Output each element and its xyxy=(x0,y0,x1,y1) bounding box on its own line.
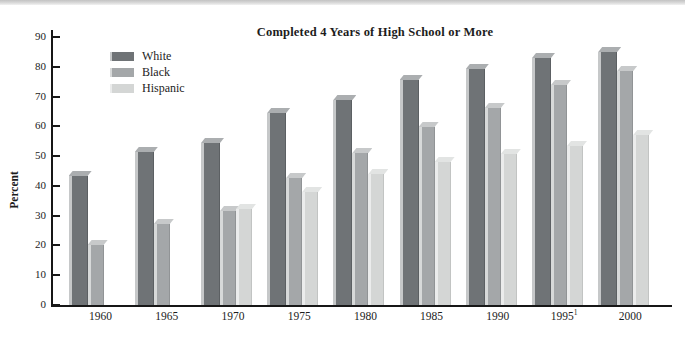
bar-top-face xyxy=(135,147,158,152)
bar-top-face xyxy=(400,75,423,80)
decorative-top-band xyxy=(0,0,685,5)
bar-top-face xyxy=(267,108,290,113)
x-tick-label-1960: 1960 xyxy=(89,310,112,322)
bar-top-face xyxy=(201,138,224,143)
bar-hispanic-1995 xyxy=(567,146,583,305)
bar-top-face xyxy=(567,141,587,146)
bar-group-1995 xyxy=(532,58,583,305)
bar-top-face xyxy=(286,173,306,178)
bar-top-face xyxy=(69,171,92,176)
bar-black-1965 xyxy=(154,224,170,305)
x-tick-label-1995: 19951 xyxy=(551,310,578,322)
bar-group-1960 xyxy=(69,176,104,305)
bar-white-1990 xyxy=(466,69,485,305)
bar-top-face xyxy=(154,219,174,224)
bar-white-1980 xyxy=(333,100,352,305)
x-tick-label-1970: 1970 xyxy=(222,310,245,322)
y-tick-label-20: 20 xyxy=(18,237,46,252)
y-tick-20 xyxy=(53,244,60,246)
bar-group-1985 xyxy=(400,80,451,305)
bar-group-1975 xyxy=(267,113,318,305)
bar-white-1985 xyxy=(400,80,419,305)
x-axis-line xyxy=(51,305,672,307)
x-tick-label-1990: 1990 xyxy=(486,310,509,322)
y-tick-label-90: 90 xyxy=(18,29,46,44)
bar-top-face xyxy=(633,130,653,135)
y-tick-label-40: 40 xyxy=(18,178,46,193)
x-tick-label-1985: 1985 xyxy=(420,310,443,322)
bar-top-face xyxy=(302,187,322,192)
x-tick-label-1980: 1980 xyxy=(354,310,377,322)
x-tick-label-1965: 1965 xyxy=(155,310,178,322)
y-tick-30 xyxy=(53,215,60,217)
bar-black-1980 xyxy=(352,153,368,305)
bar-black-1990 xyxy=(485,108,501,305)
bar-black-1975 xyxy=(286,178,302,305)
bar-top-face xyxy=(532,53,555,58)
bar-top-face xyxy=(485,103,505,108)
y-tick-label-50: 50 xyxy=(18,148,46,163)
y-tick-label-80: 80 xyxy=(18,59,46,74)
bar-group-1970 xyxy=(201,143,252,305)
y-tick-10 xyxy=(53,274,60,276)
y-tick-label-60: 60 xyxy=(18,118,46,133)
y-tick-70 xyxy=(53,96,60,98)
y-tick-90 xyxy=(53,36,60,38)
y-tick-0 xyxy=(53,304,60,306)
bar-hispanic-1990 xyxy=(501,154,517,305)
bar-black-1995 xyxy=(551,85,567,305)
bar-top-face xyxy=(368,169,388,174)
bar-top-face xyxy=(617,66,637,71)
chart-figure: Completed 4 Years of High School or More… xyxy=(0,0,685,344)
bar-white-2000 xyxy=(598,52,617,305)
x-tick-label-1975: 1975 xyxy=(288,310,311,322)
bar-black-2000 xyxy=(617,71,633,305)
y-tick-40 xyxy=(53,185,60,187)
bar-top-face xyxy=(88,240,108,245)
y-tick-label-70: 70 xyxy=(18,89,46,104)
bar-top-face xyxy=(236,204,256,209)
bar-black-1970 xyxy=(220,211,236,305)
bar-white-1975 xyxy=(267,113,286,305)
bar-white-1970 xyxy=(201,143,220,305)
bar-top-face xyxy=(419,122,439,127)
bar-top-face xyxy=(435,157,455,162)
y-tick-label-30: 30 xyxy=(18,208,46,223)
bar-top-face xyxy=(466,64,489,69)
y-tick-label-10: 10 xyxy=(18,267,46,282)
bar-group-1990 xyxy=(466,69,517,305)
bar-top-face xyxy=(551,80,571,85)
bar-hispanic-1980 xyxy=(368,174,384,305)
bar-hispanic-1985 xyxy=(435,162,451,305)
bar-black-1985 xyxy=(419,127,435,305)
bar-black-1960 xyxy=(88,245,104,305)
bar-group-1965 xyxy=(135,152,170,305)
plot-area xyxy=(53,37,672,305)
bar-hispanic-1970 xyxy=(236,209,252,305)
bar-white-1965 xyxy=(135,152,154,305)
bar-hispanic-1975 xyxy=(302,192,318,305)
footnote-marker: 1 xyxy=(574,308,578,317)
bar-white-1960 xyxy=(69,176,88,305)
bar-hispanic-2000 xyxy=(633,135,649,305)
bar-top-face xyxy=(598,47,621,52)
y-tick-80 xyxy=(53,66,60,68)
bar-top-face xyxy=(501,149,521,154)
y-tick-50 xyxy=(53,155,60,157)
bar-group-2000 xyxy=(598,52,649,305)
bar-top-face xyxy=(352,148,372,153)
x-tick-label-2000: 2000 xyxy=(619,310,642,322)
bar-white-1995 xyxy=(532,58,551,305)
y-tick-label-0: 0 xyxy=(18,297,46,312)
bar-top-face xyxy=(333,95,356,100)
bar-group-1980 xyxy=(333,100,384,305)
y-tick-60 xyxy=(53,125,60,127)
